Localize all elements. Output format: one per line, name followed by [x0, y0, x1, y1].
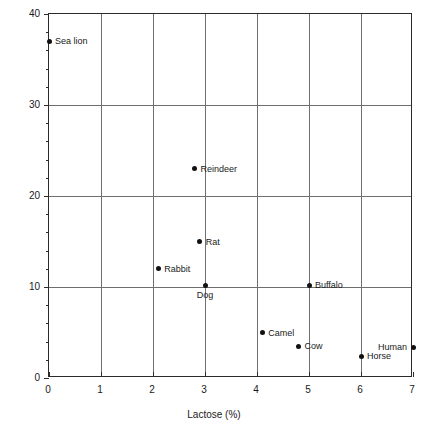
- y-tick-label: 40: [14, 8, 40, 19]
- gridline-vertical: [205, 14, 206, 376]
- data-point-label: Dog: [197, 290, 214, 300]
- data-point-label: Rabbit: [164, 264, 190, 274]
- gridline-vertical: [257, 14, 258, 376]
- x-tick-label: 2: [149, 384, 155, 395]
- x-tick: [49, 372, 50, 377]
- x-tick: [205, 372, 206, 377]
- x-tick: [101, 372, 102, 377]
- data-point-label: Camel: [268, 328, 294, 338]
- data-point-label: Sea lion: [55, 36, 88, 46]
- data-point: [203, 283, 208, 288]
- y-tick-minor: [46, 141, 49, 142]
- x-tick-label: 5: [305, 384, 311, 395]
- data-point: [192, 166, 197, 171]
- y-tick-minor: [46, 50, 49, 51]
- scatter-plot-figure: Sea lionReindeerRatRabbitDogBuffaloCamel…: [0, 0, 428, 431]
- y-tick-minor: [46, 160, 49, 161]
- y-tick-minor: [46, 123, 49, 124]
- y-tick-major: [44, 105, 49, 106]
- plot-area: Sea lionReindeerRatRabbitDogBuffaloCamel…: [48, 13, 412, 377]
- y-tick-minor: [46, 69, 49, 70]
- x-tick-label: 0: [45, 384, 51, 395]
- gridline-horizontal: [49, 105, 411, 106]
- y-tick-minor: [46, 251, 49, 252]
- x-tick-label: 7: [409, 384, 415, 395]
- y-tick-label: 20: [14, 190, 40, 201]
- y-tick-major: [44, 196, 49, 197]
- gridline-vertical: [361, 14, 362, 376]
- x-tick-label: 6: [357, 384, 363, 395]
- x-tick: [361, 372, 362, 377]
- x-tick-label: 4: [253, 384, 259, 395]
- gridline-vertical: [101, 14, 102, 376]
- y-tick-minor: [46, 323, 49, 324]
- y-tick-major: [44, 14, 49, 15]
- y-tick-major: [44, 378, 49, 379]
- data-point-label: Reindeer: [201, 164, 238, 174]
- data-point-label: Rat: [206, 237, 220, 247]
- y-tick-minor: [46, 269, 49, 270]
- gridline-vertical: [309, 14, 310, 376]
- x-tick: [153, 372, 154, 377]
- data-point-label: Cow: [305, 341, 323, 351]
- data-point: [197, 239, 202, 244]
- y-tick-label: 10: [14, 281, 40, 292]
- y-tick-minor: [46, 214, 49, 215]
- y-tick-minor: [46, 178, 49, 179]
- gridline-horizontal: [49, 196, 411, 197]
- data-point-label: Buffalo: [315, 280, 343, 290]
- data-point: [156, 266, 161, 271]
- x-axis-title: Lactose (%): [0, 409, 428, 420]
- y-tick-minor: [46, 87, 49, 88]
- x-tick: [257, 372, 258, 377]
- data-point: [411, 345, 416, 350]
- data-point: [260, 330, 265, 335]
- y-tick-label: 0: [14, 372, 40, 383]
- y-tick-label: 30: [14, 99, 40, 110]
- data-point: [47, 39, 52, 44]
- x-tick: [309, 372, 310, 377]
- y-tick-minor: [46, 342, 49, 343]
- data-point-label: Human: [378, 342, 407, 352]
- y-tick-minor: [46, 32, 49, 33]
- data-point-label: Horse: [367, 351, 391, 361]
- data-point: [307, 283, 312, 288]
- x-tick-label: 1: [97, 384, 103, 395]
- gridline-vertical: [153, 14, 154, 376]
- x-tick-label: 3: [201, 384, 207, 395]
- y-tick-minor: [46, 360, 49, 361]
- y-tick-minor: [46, 232, 49, 233]
- y-tick-major: [44, 287, 49, 288]
- data-point: [359, 354, 364, 359]
- x-tick: [413, 372, 414, 377]
- data-point: [296, 344, 301, 349]
- gridline-horizontal: [49, 287, 411, 288]
- y-tick-minor: [46, 305, 49, 306]
